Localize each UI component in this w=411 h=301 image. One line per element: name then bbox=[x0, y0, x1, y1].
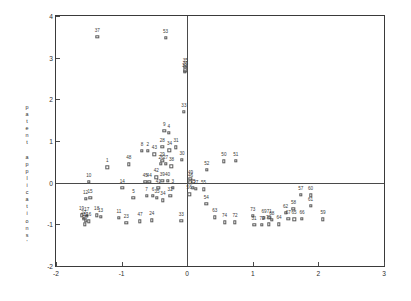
y-tick-mark bbox=[56, 183, 60, 184]
data-point-marker bbox=[163, 129, 166, 132]
y-tick-mark bbox=[56, 141, 60, 142]
data-point-label: 44 bbox=[147, 174, 152, 179]
data-point-label: 50 bbox=[221, 154, 226, 159]
data-point-marker bbox=[161, 179, 164, 182]
data-point-marker bbox=[146, 149, 149, 152]
data-point-marker bbox=[168, 194, 171, 197]
data-point-marker bbox=[124, 221, 127, 224]
x-tick-mark bbox=[122, 262, 123, 266]
data-point-label: 52 bbox=[204, 162, 209, 167]
data-point-label: 32 bbox=[168, 188, 173, 193]
y-axis-label-char: l bbox=[20, 175, 34, 182]
data-point-label: 61 bbox=[308, 198, 313, 203]
data-point-label: 31 bbox=[173, 140, 178, 145]
y-axis-label-char: p bbox=[20, 168, 34, 175]
data-point-label: 72 bbox=[259, 217, 264, 222]
data-point-label: 1 bbox=[106, 160, 109, 165]
data-point-label: 65 bbox=[292, 212, 297, 217]
y-axis-label-char bbox=[20, 147, 34, 154]
y-axis-label-char: p bbox=[20, 161, 34, 168]
x-tick-label: 0 bbox=[185, 270, 189, 277]
data-point-marker bbox=[223, 221, 226, 224]
data-point-label: 33 bbox=[181, 104, 186, 109]
data-point-label: 39 bbox=[160, 173, 165, 178]
data-point-marker bbox=[233, 221, 236, 224]
x-tick-mark bbox=[384, 262, 385, 266]
data-point-label: 59 bbox=[320, 212, 325, 217]
data-point-label: 8 bbox=[141, 143, 144, 148]
x-tick-mark bbox=[253, 262, 254, 266]
data-point-marker bbox=[88, 196, 91, 199]
data-point-label: 64 bbox=[276, 217, 281, 222]
y-axis-label-char: o bbox=[20, 218, 34, 225]
data-point-label: 4 bbox=[168, 125, 171, 130]
data-point-label: 73 bbox=[250, 208, 255, 213]
data-point-label: 33 bbox=[179, 213, 184, 218]
data-point-marker bbox=[164, 162, 167, 165]
data-point-label: 70 bbox=[266, 217, 271, 222]
data-point-marker bbox=[164, 36, 167, 39]
data-point-label: 32 bbox=[182, 64, 187, 69]
data-point-label: 40 bbox=[165, 173, 170, 178]
x-tick-label: 2 bbox=[317, 270, 321, 277]
data-point-marker bbox=[205, 168, 208, 171]
data-point-label: 56 bbox=[187, 187, 192, 192]
data-point-marker bbox=[309, 204, 312, 207]
data-point-marker bbox=[127, 163, 130, 166]
data-point-label: 60 bbox=[308, 188, 313, 193]
data-point-marker bbox=[145, 194, 148, 197]
y-axis-label-char: a bbox=[20, 111, 34, 118]
data-point-label: 24 bbox=[149, 213, 154, 218]
data-point-marker bbox=[287, 217, 290, 220]
x-tick-label: -2 bbox=[53, 270, 59, 277]
data-point-marker bbox=[150, 218, 153, 221]
data-point-label: 28 bbox=[160, 139, 165, 144]
data-point-label: 15 bbox=[88, 190, 93, 195]
data-point-marker bbox=[155, 196, 158, 199]
data-point-marker bbox=[213, 216, 216, 219]
y-axis-label-char: i bbox=[20, 210, 34, 217]
y-axis-label-char: i bbox=[20, 182, 34, 189]
data-point-marker bbox=[260, 223, 263, 226]
data-point-marker bbox=[180, 158, 183, 161]
y-axis-label-char: n bbox=[20, 225, 34, 232]
data-point-label: 3 bbox=[171, 180, 174, 185]
data-point-marker bbox=[161, 145, 164, 148]
data-point-marker bbox=[87, 220, 90, 223]
data-point-marker bbox=[180, 219, 183, 222]
data-point-label: 48 bbox=[126, 157, 131, 162]
y-tick-label: -2 bbox=[40, 263, 53, 270]
data-point-marker bbox=[234, 159, 237, 162]
data-point-label: 74 bbox=[222, 215, 227, 220]
y-tick-label: 2 bbox=[40, 96, 53, 103]
data-point-label: 11 bbox=[117, 210, 122, 215]
data-point-label: 55 bbox=[201, 182, 206, 187]
y-axis-label-char: a bbox=[20, 154, 34, 161]
y-axis-label-char: ' bbox=[20, 239, 34, 246]
data-point-label: 51 bbox=[233, 153, 238, 158]
data-point-label: 34 bbox=[167, 143, 172, 148]
data-point-label: 67 bbox=[286, 211, 291, 216]
data-point-marker bbox=[170, 165, 173, 168]
y-axis-label-char: n bbox=[20, 132, 34, 139]
data-point-marker bbox=[84, 197, 87, 200]
y-tick-label: -1 bbox=[40, 221, 53, 228]
y-tick-label: 1 bbox=[40, 138, 53, 145]
data-point-marker bbox=[168, 148, 171, 151]
data-point-label: 43 bbox=[152, 147, 157, 152]
data-point-label: 63 bbox=[212, 210, 217, 215]
data-point-label: 23 bbox=[124, 215, 129, 220]
data-point-label: 57 bbox=[298, 187, 303, 192]
data-point-marker bbox=[174, 146, 177, 149]
y-axis-label-char: t bbox=[20, 139, 34, 146]
data-point-marker bbox=[299, 193, 302, 196]
data-point-marker bbox=[153, 153, 156, 156]
data-point-marker bbox=[121, 186, 124, 189]
y-axis-label-char: s bbox=[20, 232, 34, 239]
data-point-marker bbox=[144, 180, 147, 183]
x-tick-mark bbox=[318, 262, 319, 266]
data-point-label: 66 bbox=[299, 211, 304, 216]
x-axis-zero-line bbox=[56, 183, 384, 184]
data-point-marker bbox=[161, 198, 164, 201]
y-tick-label: 4 bbox=[40, 13, 53, 20]
